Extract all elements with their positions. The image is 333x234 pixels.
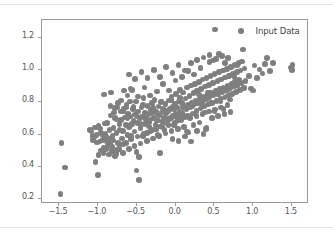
x-axis-tick-mark xyxy=(97,203,98,206)
y-axis-tick-mark xyxy=(38,198,41,199)
scatter-point xyxy=(59,140,65,146)
x-axis-tick-mark xyxy=(252,203,253,206)
scatter-point xyxy=(139,69,145,75)
scatter-point xyxy=(166,88,172,94)
scatter-point xyxy=(134,168,140,174)
scatter-point xyxy=(132,76,138,82)
scatter-point xyxy=(173,78,179,84)
legend-circle-marker-icon xyxy=(238,28,244,34)
scatter-point xyxy=(157,74,163,80)
scatter-point xyxy=(262,61,268,67)
scatter-point xyxy=(187,94,193,100)
x-axis-tick-label: −1.5 xyxy=(38,207,78,216)
scatter-point xyxy=(232,74,238,80)
scatter-point xyxy=(58,191,64,197)
y-axis-tick-mark xyxy=(38,166,41,167)
scatter-point xyxy=(94,140,100,146)
scatter-point xyxy=(162,108,168,114)
x-axis-tick-mark xyxy=(136,203,137,206)
scatter-point xyxy=(90,133,96,139)
x-axis-tick-label: 0.5 xyxy=(193,207,233,216)
scatter-point xyxy=(204,125,210,131)
scatter-point xyxy=(160,124,166,130)
y-axis-tick-label: 0.6 xyxy=(0,128,34,137)
scatter-point xyxy=(196,92,202,98)
scatter-point xyxy=(154,89,160,95)
y-axis-tick-mark xyxy=(38,134,41,135)
legend[interactable]: Input Data xyxy=(238,26,300,36)
y-axis-tick-mark xyxy=(38,101,41,102)
scatter-point xyxy=(157,150,163,156)
scatter-point xyxy=(194,57,200,63)
scatter-point xyxy=(148,107,154,113)
scatter-point xyxy=(166,122,172,128)
scatter-point xyxy=(163,64,169,70)
scatter-point xyxy=(227,97,233,103)
scatter-point xyxy=(205,90,211,96)
scatter-point xyxy=(108,103,114,109)
scatter-point xyxy=(120,109,126,115)
scatter-point xyxy=(222,111,228,117)
scatter-point xyxy=(179,74,185,80)
scatter-point xyxy=(180,90,186,96)
scatter-point xyxy=(101,92,107,98)
scatter-point xyxy=(201,131,207,137)
x-axis-tick-mark xyxy=(291,203,292,206)
scatter-point xyxy=(126,146,132,152)
x-axis-tick-mark xyxy=(58,203,59,206)
scatter-point xyxy=(197,120,203,126)
y-axis-tick-label: 0.4 xyxy=(0,160,34,169)
image-top-band xyxy=(0,4,333,5)
scatter-point xyxy=(62,165,68,171)
scatter-point xyxy=(264,55,270,61)
scatter-point xyxy=(168,97,174,103)
y-axis-tick-mark xyxy=(38,37,41,38)
scatter-point xyxy=(106,152,112,158)
scatter-point xyxy=(209,115,215,121)
scatter-point xyxy=(128,122,134,128)
scatter-point xyxy=(142,85,148,91)
scatter-point xyxy=(171,106,177,112)
scatter-point xyxy=(146,119,152,125)
scatter-point xyxy=(128,136,134,142)
scatter-point xyxy=(243,78,249,84)
scatter-point xyxy=(241,85,247,91)
scatter-point xyxy=(165,116,171,122)
scatter-point xyxy=(150,136,156,142)
scatter-point xyxy=(246,73,252,79)
scatter-point xyxy=(194,128,200,134)
scatter-points-layer xyxy=(42,20,307,202)
scatter-point xyxy=(270,60,276,66)
scatter-point xyxy=(170,70,176,76)
y-axis-tick-label: 0.2 xyxy=(0,192,34,201)
scatter-point xyxy=(222,60,228,66)
scatter-point xyxy=(218,98,224,104)
y-axis-tick-mark xyxy=(38,69,41,70)
scatter-point xyxy=(176,138,182,144)
x-axis-tick-mark xyxy=(213,203,214,206)
scatter-point xyxy=(182,68,188,74)
scatter-point xyxy=(136,177,142,183)
scatter-point xyxy=(174,114,180,120)
scatter-point xyxy=(163,131,169,137)
scatter-point xyxy=(102,121,108,127)
scatter-point xyxy=(199,101,205,107)
scatter-point xyxy=(185,130,191,136)
scatter-point xyxy=(145,75,151,81)
scatter-point xyxy=(141,95,147,101)
scatter-point xyxy=(177,95,183,101)
scatter-point xyxy=(240,47,246,53)
scatter-point xyxy=(137,121,143,127)
scatter-point xyxy=(93,159,99,165)
scatter-point xyxy=(138,141,144,147)
scatter-point xyxy=(254,75,260,81)
scatter-plot-figure: −1.5−1.0−0.50.00.51.01.5 0.20.40.60.81.0… xyxy=(0,0,333,234)
scatter-point xyxy=(212,108,218,114)
scatter-point xyxy=(156,133,162,139)
x-axis-tick-label: −1.0 xyxy=(77,207,117,216)
scatter-point xyxy=(176,62,182,68)
scatter-point xyxy=(191,72,197,78)
scatter-point xyxy=(172,120,178,126)
scatter-point xyxy=(95,172,101,178)
scatter-point xyxy=(229,65,235,71)
